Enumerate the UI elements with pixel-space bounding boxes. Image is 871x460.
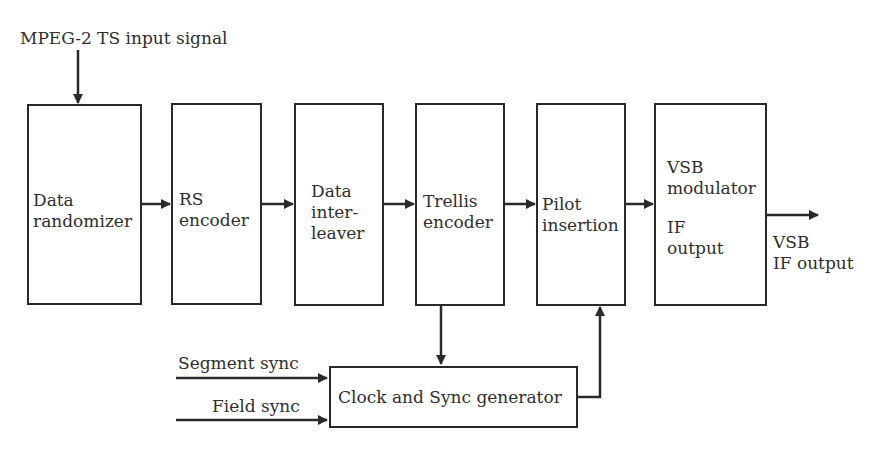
block-label-line: output [667,238,724,259]
block-data-randomizer: Data randomizer [27,104,142,305]
block-label-line: Pilot [542,194,581,215]
block-label-line: IF [667,217,686,238]
block-label-line: leaver [311,223,364,244]
block-label-line: RS [179,189,203,210]
block-pilot-insertion: Pilot insertion [536,103,626,306]
arrow-clock-pilot [577,307,600,397]
block-label-line: modulator [667,178,756,199]
block-label-line: encoder [179,210,249,231]
block-label-line: encoder [423,212,493,233]
block-label-line: Data [33,190,74,211]
block-trellis-encoder: Trellis encoder [415,103,505,306]
block-label-line: VSB [667,157,703,178]
block-label-line: randomizer [33,211,132,232]
block-data-interleaver: Data inter- leaver [294,103,384,306]
clock-sync-label: Clock and Sync generator [338,387,562,408]
output-label-line: IF output [773,253,854,274]
field-sync-label: Field sync [212,396,300,417]
block-label-line: Data [311,181,352,202]
input-signal-label: MPEG-2 TS input signal [20,28,228,49]
output-label-line: VSB [773,232,809,253]
block-label-line: Trellis [423,191,478,212]
block-clock-sync-generator: Clock and Sync generator [329,366,578,428]
block-label-line: inter- [311,202,358,223]
block-label-line: insertion [542,215,619,236]
block-vsb-modulator: VSB modulator IF output [654,103,767,306]
block-rs-encoder: RS encoder [171,103,262,305]
segment-sync-label: Segment sync [178,353,299,374]
